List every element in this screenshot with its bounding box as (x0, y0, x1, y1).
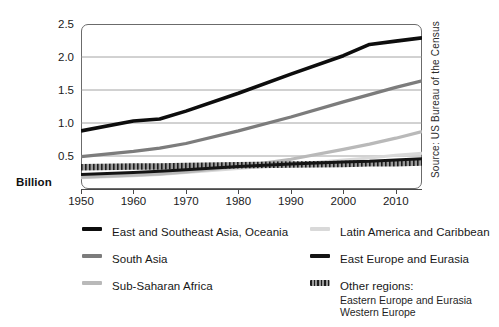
x-tick-mark (396, 189, 397, 194)
legend-text-group: East Europe and Eurasia (340, 249, 469, 267)
legend-item[interactable]: Other regions:Eastern Europe and Eurasia… (310, 276, 499, 318)
x-tick-mark (81, 189, 82, 194)
plot-area (81, 24, 422, 189)
y-tick-label: 2.5 (38, 18, 74, 30)
series-lines (81, 38, 422, 178)
plot-canvas (81, 24, 422, 189)
legend-item[interactable]: Latin America and Caribbean (310, 222, 499, 240)
legend-label: Latin America and Caribbean (340, 226, 490, 238)
y-tick-label: 2.0 (38, 51, 74, 63)
legend-item[interactable]: Sub-Saharan Africa (82, 276, 312, 294)
x-tick-mark (186, 189, 187, 194)
legend-label: East and Southeast Asia, Oceania (112, 226, 288, 238)
x-tick-label: 1970 (164, 195, 208, 208)
series-line (81, 38, 422, 131)
y-axis-title: Billion (16, 176, 52, 188)
x-tick-label: 1980 (216, 195, 260, 208)
legend-text-group: South Asia (112, 249, 167, 267)
legend-label: East Europe and Eurasia (340, 253, 469, 265)
legend-sublabel: Eastern Europe and Eurasia (340, 294, 472, 306)
y-tick-label: 1.5 (38, 84, 74, 96)
legend-swatch-black-line (310, 254, 330, 258)
legend-swatch-black-line (82, 227, 102, 231)
legend-swatch-pale-gray-line (310, 227, 330, 231)
x-tick-label: 2000 (321, 195, 365, 208)
legend-swatch-hatched-band (310, 280, 330, 286)
x-tick-label: 2010 (374, 195, 418, 208)
chart-legend: East and Southeast Asia, OceaniaSouth As… (0, 222, 499, 327)
legend-column-right: Latin America and CaribbeanEast Europe a… (310, 222, 499, 327)
y-tick-label: 1.0 (38, 117, 74, 129)
legend-label: Sub-Saharan Africa (112, 280, 213, 292)
x-tick-label: 1950 (59, 195, 103, 208)
legend-swatch-gray-line (82, 254, 102, 258)
x-axis-line (81, 189, 422, 190)
legend-column-left: East and Southeast Asia, OceaniaSouth As… (82, 222, 312, 303)
legend-label: South Asia (112, 253, 167, 265)
x-tick-mark (343, 189, 344, 194)
legend-text-group: East and Southeast Asia, Oceania (112, 222, 288, 240)
legend-sublabel: Western Europe (340, 306, 472, 318)
x-tick-mark (238, 189, 239, 194)
legend-item[interactable]: East and Southeast Asia, Oceania (82, 222, 312, 240)
gridlines (81, 57, 422, 156)
legend-text-group: Latin America and Caribbean (340, 222, 490, 240)
chart-figure: 0.51.01.52.02.5 195019601970198019902000… (0, 0, 499, 327)
legend-text-group: Other regions:Eastern Europe and Eurasia… (340, 276, 472, 318)
x-tick-mark (291, 189, 292, 194)
legend-text-group: Sub-Saharan Africa (112, 276, 213, 294)
x-tick-mark (133, 189, 134, 194)
legend-label: Other regions: (340, 280, 414, 292)
x-tick-label: 1990 (269, 195, 313, 208)
series-line (81, 132, 422, 178)
y-tick-label: 0.5 (38, 150, 74, 162)
x-tick-label: 1960 (111, 195, 155, 208)
source-note-text: Source: US Bureau of the Census (430, 18, 441, 178)
legend-swatch-light-gray-line (82, 281, 102, 285)
legend-item[interactable]: South Asia (82, 249, 312, 267)
legend-item[interactable]: East Europe and Eurasia (310, 249, 499, 267)
